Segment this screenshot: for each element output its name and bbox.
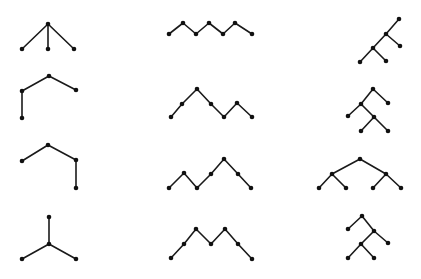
tree-vertex: [358, 157, 363, 162]
tree-vertex: [169, 115, 174, 120]
tree-vertex: [384, 172, 389, 177]
tree-vertex: [236, 172, 241, 177]
tree-vertex: [74, 88, 79, 93]
tree-vertex: [46, 22, 51, 27]
tree-vertex: [20, 89, 25, 94]
tree-vertex: [195, 186, 200, 191]
tree-vertex: [360, 214, 365, 219]
tree-vertex: [20, 257, 25, 262]
tree-vertex: [250, 32, 255, 37]
tree-vertex: [386, 129, 391, 134]
tree-vertex: [386, 101, 391, 106]
tree-vertex: [207, 21, 212, 26]
tree-vertex: [181, 21, 186, 26]
tree-vertex: [344, 186, 349, 191]
tree-vertex: [346, 256, 351, 261]
tree-vertex: [384, 59, 389, 64]
tree-vertex: [74, 158, 79, 163]
tree-vertex: [209, 102, 214, 107]
tree-vertex: [47, 74, 52, 79]
tree-vertex: [222, 157, 227, 162]
tree-vertex: [359, 129, 364, 134]
tree-vertex: [236, 242, 241, 247]
tree-vertex: [20, 159, 25, 164]
tree-vertex: [372, 256, 377, 261]
tree-vertex: [358, 60, 363, 65]
tree-vertex: [371, 186, 376, 191]
background: [0, 0, 421, 279]
tree-vertex: [209, 242, 214, 247]
tree-vertex: [74, 257, 79, 262]
tree-vertex: [372, 115, 377, 120]
tree-vertex: [20, 47, 25, 52]
tree-vertex: [221, 32, 226, 37]
tree-vertex: [167, 186, 172, 191]
tree-vertex: [386, 241, 391, 246]
tree-vertex: [47, 242, 52, 247]
tree-vertex: [397, 17, 402, 22]
tree-vertex: [182, 242, 187, 247]
tree-vertex: [330, 172, 335, 177]
tree-vertex: [180, 102, 185, 107]
tree-vertex: [399, 186, 404, 191]
tree-vertex: [195, 87, 200, 92]
tree-vertex: [359, 102, 364, 107]
tree-vertex: [182, 171, 187, 176]
tree-vertex: [372, 229, 377, 234]
tree-vertex: [233, 21, 238, 26]
tree-vertex: [250, 115, 255, 120]
tree-vertex: [249, 186, 254, 191]
tree-vertex: [346, 114, 351, 119]
tree-vertex: [194, 227, 199, 232]
tree-vertex: [317, 186, 322, 191]
tree-vertex: [209, 172, 214, 177]
tree-vertex: [371, 87, 376, 92]
tree-diagram-canvas: [0, 0, 421, 279]
tree-vertex: [359, 242, 364, 247]
tree-vertex: [46, 47, 51, 52]
tree-vertex: [47, 215, 52, 220]
tree-vertex: [223, 227, 228, 232]
tree-vertex: [384, 32, 389, 37]
tree-vertex: [346, 227, 351, 232]
tree-vertex: [371, 46, 376, 51]
tree-vertex: [235, 101, 240, 106]
tree-vertex: [222, 115, 227, 120]
tree-vertex: [167, 32, 172, 37]
tree-vertex: [194, 32, 199, 37]
tree-vertex: [74, 186, 79, 191]
tree-vertex: [169, 256, 174, 261]
tree-vertex: [20, 116, 25, 121]
tree-vertex: [72, 47, 77, 52]
tree-vertex: [398, 44, 403, 49]
tree-vertex: [250, 257, 255, 262]
tree-vertex: [46, 143, 51, 148]
